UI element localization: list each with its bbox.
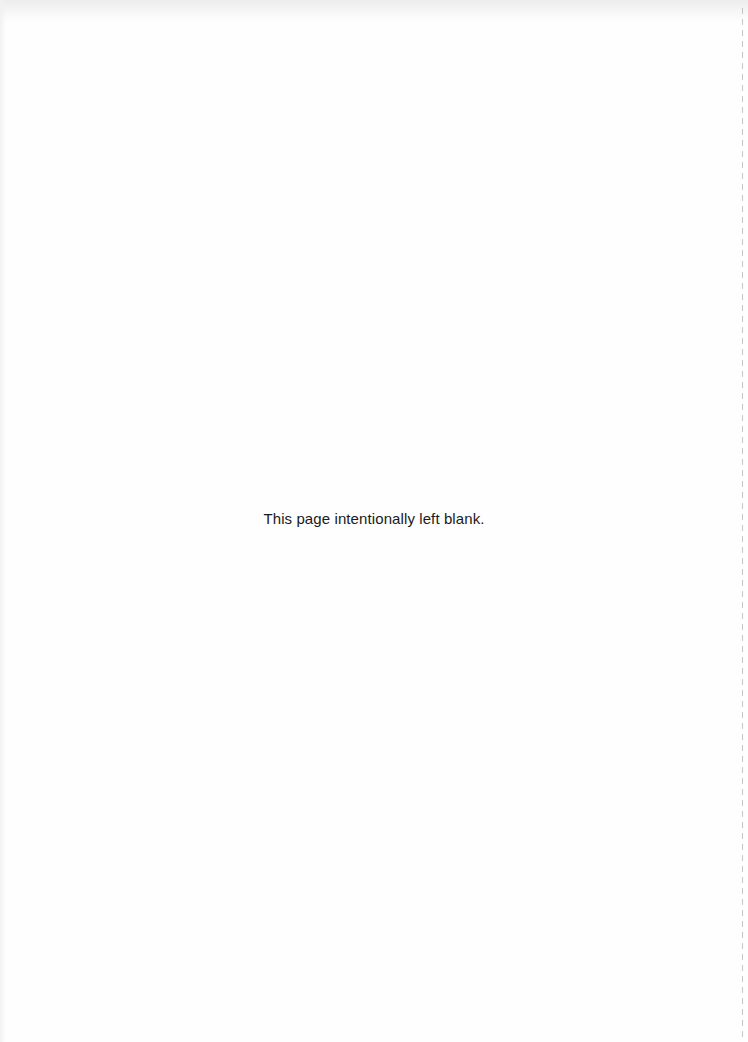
document-page: This page intentionally left blank.	[0, 0, 748, 1042]
scan-shadow-top	[0, 0, 748, 22]
blank-page-notice: This page intentionally left blank.	[0, 509, 748, 529]
